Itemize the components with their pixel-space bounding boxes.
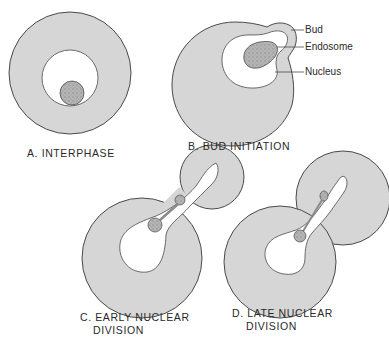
caption-panel-b: B. BUD INITIATION [188,140,290,153]
panel-d-endosome-lower [294,230,306,242]
panel-c-endosome-upper [175,195,185,205]
caption-panel-a: A. INTERPHASE [27,147,115,160]
panel-a-endosome [60,81,84,105]
caption-panel-c-line2: DIVISION [93,324,144,337]
panel-c-endosome-lower [148,218,162,232]
callout-bud: Bud [305,24,323,36]
caption-panel-d-line2: DIVISION [246,320,297,333]
caption-panel-d-line1: D. LATE NUCLEAR [232,307,333,320]
caption-panel-c-line1: C. EARLY NUCLEAR [80,311,190,324]
panel-d-cell [224,151,389,318]
callout-nucleus: Nucleus [305,66,341,78]
panel-a-cell [9,12,131,134]
callout-endosome: Endosome [305,41,353,53]
panel-c-cell [82,145,244,318]
panel-d-endosome-upper [320,191,328,201]
panel-b-cell [172,22,304,146]
